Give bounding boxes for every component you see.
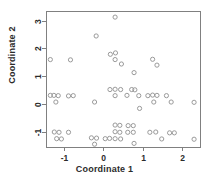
scatter-point — [113, 137, 117, 141]
scatter-point — [172, 131, 176, 135]
scatter-point — [132, 141, 136, 145]
scatter-plot-figure: -1012-10123 Coordinate 1 Coordinate 2 — [0, 0, 209, 186]
scatter-point — [119, 62, 123, 66]
scatter-point — [164, 94, 168, 98]
scatter-point — [119, 137, 123, 141]
scatter-point — [169, 100, 173, 104]
scatter-point — [54, 100, 58, 104]
scatter-point — [113, 51, 117, 55]
scatter-point — [113, 123, 117, 127]
scatter-point — [57, 130, 61, 134]
scatter-point — [125, 93, 129, 97]
scatter-point — [152, 100, 156, 104]
scatter-point — [66, 130, 70, 134]
y-tick-label: 0 — [33, 102, 43, 107]
scatter-point — [160, 137, 164, 141]
y-tick-label: -1 — [33, 128, 43, 136]
plot-canvas: -1012-10123 — [0, 0, 209, 186]
scatter-point — [148, 130, 152, 134]
scatter-point — [118, 130, 122, 134]
y-axis-title: Coordinate 2 — [7, 5, 17, 105]
scatter-point — [107, 136, 111, 140]
scatter-point — [55, 137, 59, 141]
scatter-point — [192, 100, 196, 104]
scatter-point — [92, 142, 96, 146]
scatter-point — [119, 87, 123, 91]
scatter-point — [113, 94, 117, 98]
scatter-point — [167, 131, 171, 135]
scatter-point — [71, 94, 75, 98]
scatter-point — [131, 130, 135, 134]
scatter-point — [108, 87, 112, 91]
x-tick-label: 0 — [101, 153, 106, 163]
y-tick-label: 3 — [33, 19, 43, 24]
plot-frame — [47, 12, 201, 148]
scatter-point — [118, 123, 122, 127]
scatter-point — [94, 34, 98, 38]
scatter-point — [66, 94, 70, 98]
data-points — [48, 15, 196, 146]
scatter-point — [154, 130, 158, 134]
scatter-point — [103, 137, 107, 141]
scatter-point — [137, 94, 141, 98]
scatter-point — [113, 87, 117, 91]
scatter-point — [126, 130, 130, 134]
scatter-point — [89, 136, 93, 140]
scatter-point — [108, 52, 112, 56]
scatter-point — [94, 136, 98, 140]
scatter-point — [155, 93, 159, 97]
scatter-point — [132, 71, 136, 75]
scatter-point — [59, 137, 63, 141]
scatter-point — [52, 130, 56, 134]
y-tick-label: 2 — [33, 46, 43, 51]
x-tick-label: 2 — [180, 153, 185, 163]
scatter-point — [113, 57, 117, 61]
x-tick-label: 1 — [141, 153, 146, 163]
scatter-point — [146, 94, 150, 98]
x-axis-title: Coordinate 1 — [0, 164, 209, 174]
scatter-point — [151, 93, 155, 97]
scatter-point — [68, 58, 72, 62]
scatter-point — [92, 100, 96, 104]
scatter-point — [113, 130, 117, 134]
scatter-point — [192, 137, 196, 141]
scatter-point — [113, 15, 117, 19]
scatter-point — [126, 124, 130, 128]
scatter-point — [151, 57, 155, 61]
x-tick-label: -1 — [61, 153, 69, 163]
scatter-point — [48, 57, 52, 61]
scatter-point — [56, 94, 60, 98]
scatter-point — [131, 124, 135, 128]
y-tick-label: 1 — [33, 74, 43, 79]
scatter-point — [155, 63, 159, 67]
axis-ticks — [42, 22, 183, 152]
scatter-point — [137, 106, 141, 110]
